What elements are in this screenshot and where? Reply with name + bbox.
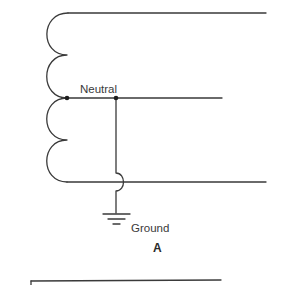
winding-center-tap-node xyxy=(65,96,70,101)
neutral-label: Neutral xyxy=(80,83,117,95)
next-figure-top-edge xyxy=(31,280,221,285)
figure-caption: A xyxy=(153,241,162,255)
ground-icon xyxy=(103,214,130,224)
neutral-ground-junction-node xyxy=(114,96,119,101)
transformer-grounding-diagram: Neutral Ground A xyxy=(0,0,282,285)
ground-label: Ground xyxy=(131,222,169,234)
grounding-conductor xyxy=(116,98,124,213)
